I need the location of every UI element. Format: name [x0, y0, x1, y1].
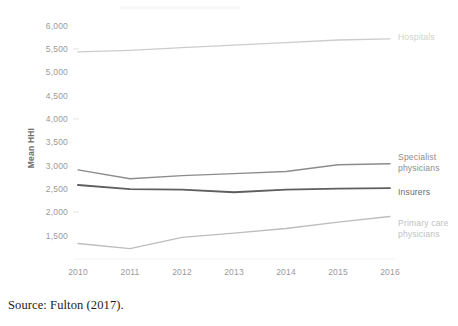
- series-line-insurers: [78, 185, 390, 192]
- figure-container: 6,000 5,500 5,000 4,500 4,000 3,500 3,00…: [0, 0, 458, 326]
- x-tick-label: 2015: [328, 267, 348, 277]
- series-label-hospitals: Hospitals: [398, 32, 435, 42]
- series-label-text-line2: physicians: [398, 229, 440, 239]
- x-axis-tick-labels: 2010 2011 2012 2013 2014 2015 2016: [68, 267, 400, 277]
- x-tick-label: 2012: [172, 267, 192, 277]
- line-chart: 6,000 5,500 5,000 4,500 4,000 3,500 3,00…: [0, 0, 458, 292]
- x-tick-label: 2011: [120, 267, 139, 277]
- series-label-insurers: Insurers: [398, 187, 430, 197]
- x-tick-label: 2013: [224, 267, 244, 277]
- series-line-hospitals: [78, 39, 390, 52]
- figure-source-caption: Source: Fulton (2017).: [8, 298, 124, 313]
- y-tick-label: 4,000: [46, 114, 68, 124]
- series-label-specialist-physicians: Specialist physicians: [398, 152, 440, 173]
- y-tick-label: 2,000: [46, 207, 68, 217]
- series-line-primary-care-physicians: [78, 217, 390, 249]
- y-tick-label: 6,000: [46, 21, 68, 31]
- y-axis-tick-marks: [73, 49, 79, 212]
- series-line-specialist-physicians: [78, 164, 390, 179]
- series-label-text-line2: physicians: [398, 163, 440, 173]
- y-tick-label: 1,500: [46, 231, 68, 241]
- x-tick-label: 2010: [68, 267, 88, 277]
- y-tick-label: 5,500: [46, 44, 68, 54]
- x-tick-label: 2014: [276, 267, 296, 277]
- chart-plot-area: 6,000 5,500 5,000 4,500 4,000 3,500 3,00…: [0, 0, 458, 292]
- series-label-text-line1: Primary care: [398, 218, 449, 228]
- series-label-text: Insurers: [398, 187, 430, 197]
- y-tick-label: 5,000: [46, 67, 68, 77]
- y-tick-label: 4,500: [46, 91, 68, 101]
- x-tick-label: 2016: [380, 267, 400, 277]
- y-tick-label: 2,500: [46, 184, 68, 194]
- y-tick-label: 3,500: [46, 137, 68, 147]
- series-label-text-line1: Specialist: [398, 152, 437, 162]
- series-label-text: Hospitals: [398, 32, 435, 42]
- y-axis-tick-labels: 6,000 5,500 5,000 4,500 4,000 3,500 3,00…: [46, 21, 68, 241]
- y-axis-title: Mean HHI: [26, 128, 36, 168]
- y-tick-label: 3,000: [46, 161, 68, 171]
- series-label-primary-care-physicians: Primary care physicians: [398, 218, 449, 239]
